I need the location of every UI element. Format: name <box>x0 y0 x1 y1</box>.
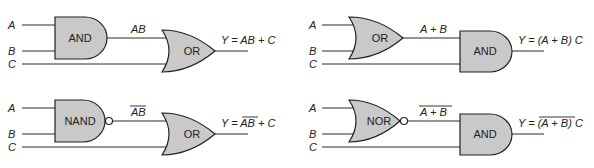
logic-circuits-diagram: A B C AND AB OR Y = AB + C A B C OR A + … <box>0 0 594 168</box>
input-c-label: C <box>309 58 317 70</box>
input-c-label: C <box>8 58 16 70</box>
input-a-label: A <box>308 102 316 114</box>
circuit-nor-and: A B C NOR A + B AND Y = (A + B) C <box>308 100 583 155</box>
output-expression: Y = (A + B) C <box>518 117 583 129</box>
input-a-label: A <box>7 102 15 114</box>
circuit-or-and: A B C OR A + B AND Y = (A + B) C <box>308 17 583 72</box>
input-c-label: C <box>8 141 16 153</box>
input-b-label: B <box>309 45 316 57</box>
intermediate-label: A + B <box>419 23 447 35</box>
intermediate-label: AB <box>130 106 146 118</box>
input-b-label: B <box>309 128 316 140</box>
and-gate-label: AND <box>68 32 91 44</box>
circuit-and-or: A B C AND AB OR Y = AB + C <box>7 17 275 72</box>
intermediate-label: A + B <box>419 106 447 118</box>
output-expression: Y = (A + B) C <box>518 34 583 46</box>
input-b-label: B <box>8 45 15 57</box>
input-a-label: A <box>308 19 316 31</box>
input-b-label: B <box>8 128 15 140</box>
or-gate-label: OR <box>184 45 201 57</box>
output-expression: Y = AB + C <box>221 117 276 129</box>
or-gate-label: OR <box>372 32 389 44</box>
and-gate-label: AND <box>473 128 496 140</box>
and-gate-label: AND <box>473 45 496 57</box>
intermediate-label: AB <box>130 23 146 35</box>
nand-gate-label: NAND <box>64 115 95 127</box>
circuit-nand-or: A B C NAND AB OR Y = AB + C <box>7 100 276 155</box>
input-a-label: A <box>7 19 15 31</box>
nor-gate-label: NOR <box>367 115 392 127</box>
inversion-bubble <box>401 118 408 125</box>
inversion-bubble <box>106 118 113 125</box>
or-gate-label: OR <box>184 128 201 140</box>
input-c-label: C <box>309 141 317 153</box>
output-expression: Y = AB + C <box>221 34 275 46</box>
